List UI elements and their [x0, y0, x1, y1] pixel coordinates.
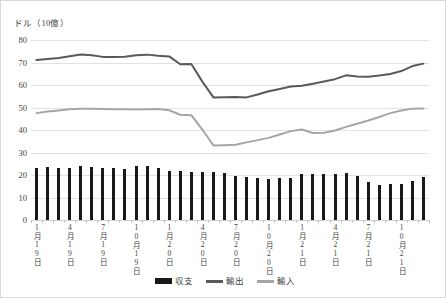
x-tick-label: 1月21日	[298, 223, 306, 266]
x-tick-label: 7月21日	[364, 223, 372, 266]
x-tick-label: 1月19日	[33, 223, 41, 266]
y-tick-label-70: 70	[7, 58, 27, 68]
x-tick-label: 4月20日	[199, 223, 207, 266]
y-tick-label-40: 40	[7, 125, 27, 135]
line-series-group	[31, 40, 429, 220]
legend-label: 輸入	[277, 277, 295, 286]
legend-label: 輸出	[226, 277, 244, 286]
legend-line-swatch-icon	[206, 280, 223, 283]
y-tick-label-10: 10	[7, 193, 27, 203]
x-tick-label: 7月20日	[232, 223, 240, 266]
line-series-輸出	[37, 54, 424, 97]
legend-item-輸入[interactable]: 輸入	[257, 277, 295, 286]
y-tick-label-60: 60	[7, 80, 27, 90]
legend-line-swatch-icon	[257, 280, 274, 283]
y-tick-label-30: 30	[7, 148, 27, 158]
x-tick-label: 4月19日	[66, 223, 74, 266]
x-tick-label: 10月21日	[398, 223, 406, 275]
legend-item-収支[interactable]: 収支	[155, 277, 193, 286]
legend-item-輸出[interactable]: 輸出	[206, 277, 244, 286]
x-tick-label: 10月19日	[132, 223, 140, 275]
unit-caption: ドル（10億）	[14, 16, 69, 28]
legend-bar-swatch-icon	[155, 278, 172, 284]
y-tick-label-80: 80	[7, 35, 27, 45]
y-tick-label-20: 20	[7, 170, 27, 180]
chart-legend: 収支輸出輸入	[1, 277, 447, 286]
chart-frame: ドル（10億） 80706050403020100 1月19日4月19日7月19…	[0, 0, 446, 298]
x-tick-label: 1月20日	[165, 223, 173, 266]
x-axis-tick-labels: 1月19日4月19日7月19日10月19日1月20日4月20日7月20日10月2…	[1, 223, 447, 275]
x-axis	[31, 220, 429, 222]
line-series-輸入	[37, 108, 424, 145]
legend-label: 収支	[175, 277, 193, 286]
x-tick-label: 4月21日	[331, 223, 339, 266]
plot-area	[31, 40, 429, 220]
x-tick-label: 7月19日	[99, 223, 107, 266]
y-tick-label-50: 50	[7, 103, 27, 113]
x-tick-label: 10月20日	[265, 223, 273, 275]
